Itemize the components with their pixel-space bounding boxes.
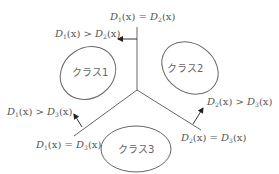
boundary-line-2-3: [137, 90, 201, 130]
inequality-label-1-2: D1(x) > D2(x): [55, 29, 120, 40]
class-1-label: クラス1: [72, 68, 108, 78]
boundary-label-1-2: D1(x) = D2(x): [110, 12, 175, 23]
class-2-label: クラス2: [167, 64, 203, 74]
inequality-label-2-3: D2(x) > D3(x): [207, 97, 272, 108]
boundary-label-2-3: D2(x) = D3(x): [181, 133, 246, 144]
boundary-line-1-3: [74, 90, 137, 136]
class-3-label: クラス3: [118, 145, 154, 155]
arrow-d1-gt-d3: [74, 114, 82, 127]
arrow-d2-gt-d3: [193, 108, 203, 124]
boundary-label-1-3: D1(x) = D3(x): [36, 140, 101, 151]
inequality-label-1-3: D1(x) > D3(x): [7, 107, 72, 118]
